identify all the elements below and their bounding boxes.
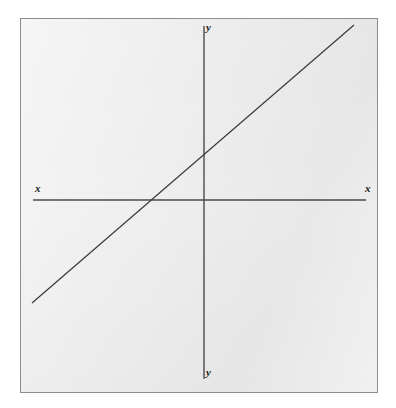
x-axis-label-right: x (365, 183, 371, 194)
y-axis-label-top: y (206, 22, 211, 33)
y-axis-label-bottom: y (206, 367, 211, 378)
figure-root: y y x x (0, 0, 396, 408)
coordinate-plane-plot (21, 19, 378, 393)
plotted-line (32, 25, 354, 303)
x-axis-label-left: x (35, 183, 41, 194)
figure-frame: y y x x (20, 18, 378, 393)
